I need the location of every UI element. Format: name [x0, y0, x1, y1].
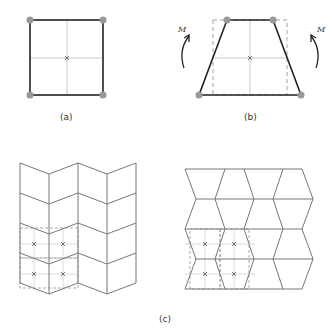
node [224, 17, 231, 24]
panel-b-label: (b) [244, 112, 257, 122]
panel-a-label: (a) [60, 112, 73, 122]
node [196, 92, 203, 99]
moment-label-right: M [316, 25, 326, 34]
panel-c-label: (c) [159, 314, 171, 324]
moment-arrow-right-icon [311, 35, 318, 68]
panel-a: (a) [27, 17, 107, 123]
moment-label-left: M [177, 25, 187, 34]
node [298, 92, 305, 99]
moment-arrow-left-icon [182, 35, 189, 68]
node [100, 17, 107, 24]
node [27, 92, 34, 99]
panel-c-right-mesh [185, 169, 313, 289]
figure-canvas: (a) M M (b) [0, 0, 332, 333]
panel-b: M M (b) [177, 17, 326, 123]
panel-c-left-mesh [20, 163, 136, 294]
node [27, 17, 34, 24]
node [270, 17, 277, 24]
node [100, 92, 107, 99]
